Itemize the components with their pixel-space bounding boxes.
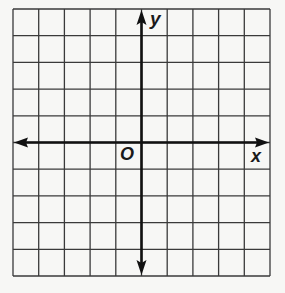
axes	[14, 10, 269, 275]
y-axis-label: y	[150, 9, 161, 28]
arrow-left-icon	[14, 138, 28, 148]
coordinate-plane	[0, 0, 285, 293]
origin-label: O	[120, 145, 134, 163]
x-axis-label: x	[251, 147, 261, 165]
